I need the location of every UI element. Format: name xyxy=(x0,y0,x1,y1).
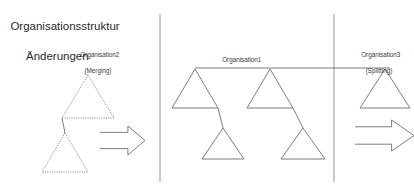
middle-triangle-connector-2 xyxy=(293,108,303,128)
left-triangle-connector xyxy=(62,118,65,133)
right-panel-name: Organisation3 xyxy=(361,51,400,58)
middle-triangle-1 xyxy=(172,69,218,108)
splitting-arrow-icon xyxy=(355,120,414,151)
left-panel-triangles xyxy=(42,75,114,172)
left-panel-sublabel: (Merging) xyxy=(62,67,134,75)
middle-triangle-connector-1 xyxy=(218,108,223,128)
middle-triangle-4 xyxy=(281,128,325,159)
left-panel-label: Organisation2 (Merging) xyxy=(62,43,134,82)
page-title-line1: Organisationsstruktur xyxy=(10,20,119,32)
middle-triangle-3 xyxy=(247,69,293,108)
middle-triangle-2 xyxy=(202,128,244,159)
middle-panel-triangles xyxy=(172,69,325,159)
left-triangle-2 xyxy=(42,133,88,172)
middle-panel-label: Organisation1 xyxy=(180,48,300,64)
right-panel-label: Organisation3 (Splitting) xyxy=(348,43,410,82)
right-panel-sublabel: (Splitting) xyxy=(348,67,410,75)
middle-panel-name: Organisation1 xyxy=(222,56,261,63)
triangle-connector-lines xyxy=(62,108,303,133)
panel-dividers xyxy=(160,14,334,182)
left-panel-name: Organisation2 xyxy=(80,51,119,58)
merging-arrow-icon xyxy=(100,126,145,155)
transition-arrows xyxy=(100,120,414,155)
